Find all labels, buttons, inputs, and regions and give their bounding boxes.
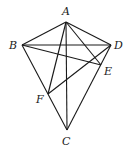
segment-AE bbox=[66, 22, 101, 65]
label-F: F bbox=[35, 93, 44, 106]
geometry-figure: A B D E F C bbox=[0, 0, 131, 157]
label-C: C bbox=[62, 135, 71, 148]
segment-AC bbox=[66, 22, 67, 130]
segment-AB bbox=[22, 22, 66, 45]
label-A: A bbox=[61, 5, 70, 18]
label-D: D bbox=[113, 39, 123, 52]
segment-AD bbox=[66, 22, 111, 45]
label-B: B bbox=[8, 39, 17, 52]
segment-AF bbox=[48, 22, 66, 94]
segment-BC bbox=[22, 45, 67, 130]
label-E: E bbox=[103, 65, 112, 78]
segment-DF bbox=[48, 45, 111, 94]
